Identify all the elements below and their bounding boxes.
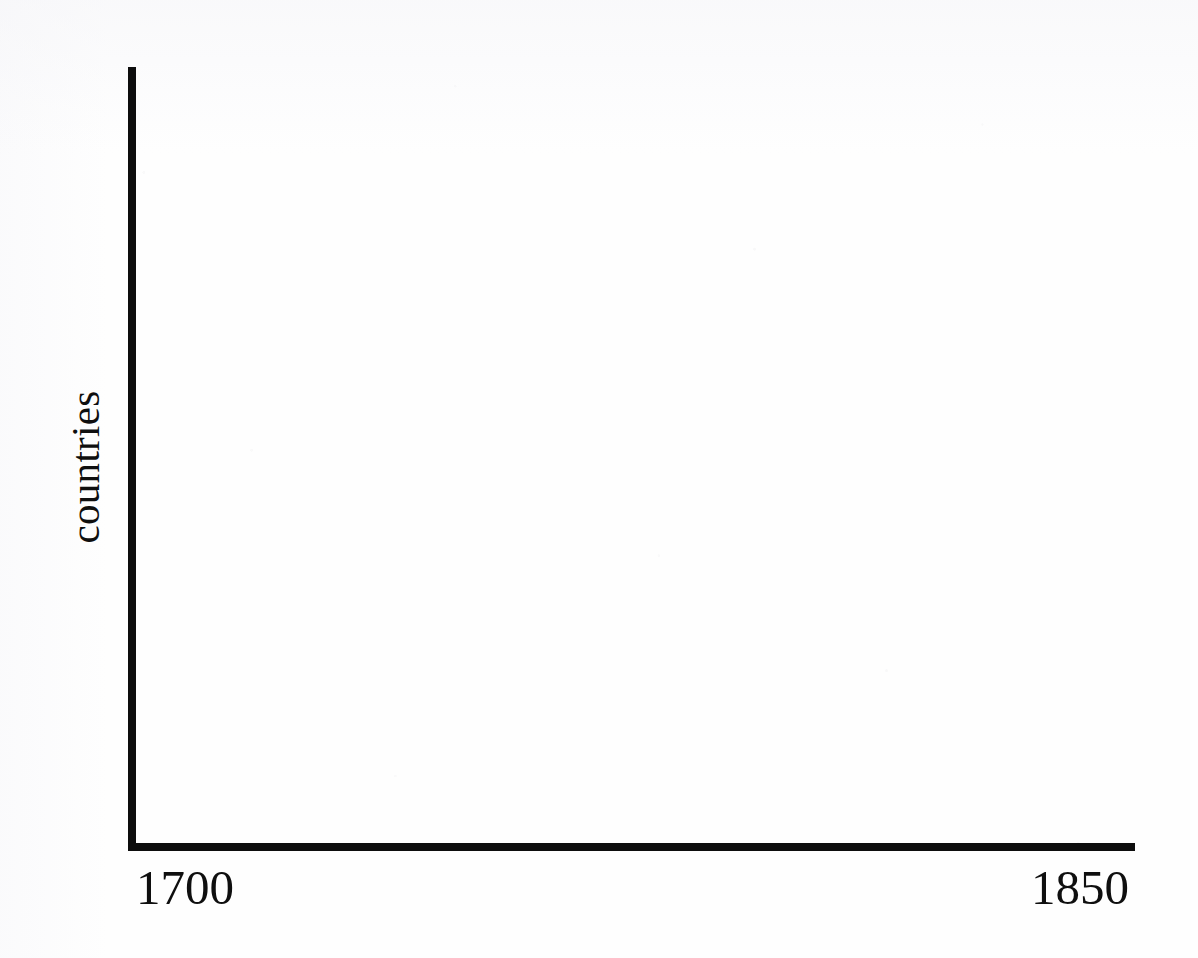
plot-area — [136, 67, 1135, 843]
x-axis-line — [128, 843, 1135, 851]
y-axis-label: countries — [62, 347, 108, 587]
chart-figure: countries 1700 1850 — [0, 0, 1198, 958]
y-axis-line — [128, 67, 136, 851]
x-axis-tick-label-end: 1850 — [1031, 862, 1129, 914]
x-axis-tick-label-start: 1700 — [136, 862, 234, 914]
